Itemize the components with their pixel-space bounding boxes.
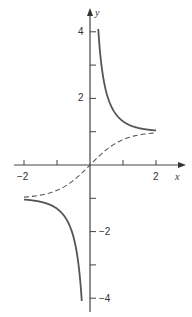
x-tick-label-neg2: −2	[17, 171, 29, 182]
x-axis-arrow-icon	[178, 162, 186, 168]
y-tick-label-2: 2	[78, 92, 84, 103]
curve-coth-negative	[24, 200, 82, 301]
x-axis-label: x	[174, 171, 180, 182]
x-tick-label-2: 2	[153, 171, 159, 182]
y-tick-label-neg2: −2	[99, 226, 111, 237]
curve-coth-positive	[98, 29, 156, 130]
axes	[14, 12, 182, 312]
y-axis-label: y	[94, 7, 100, 18]
chart: x y −2 2 4 2 −2 −4	[0, 0, 192, 317]
y-tick-label-4: 4	[78, 26, 84, 37]
y-tick-label-neg4: −4	[99, 293, 111, 304]
y-axis-arrow-icon	[87, 8, 93, 16]
